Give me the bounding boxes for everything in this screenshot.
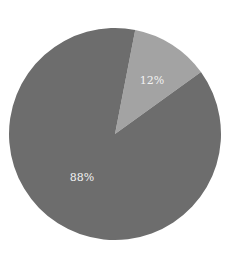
slice-label-12: 12%	[140, 74, 164, 87]
pie-chart: 12% 88%	[0, 0, 233, 263]
slice-label-88: 88%	[70, 171, 94, 184]
pie-slices	[9, 28, 221, 240]
